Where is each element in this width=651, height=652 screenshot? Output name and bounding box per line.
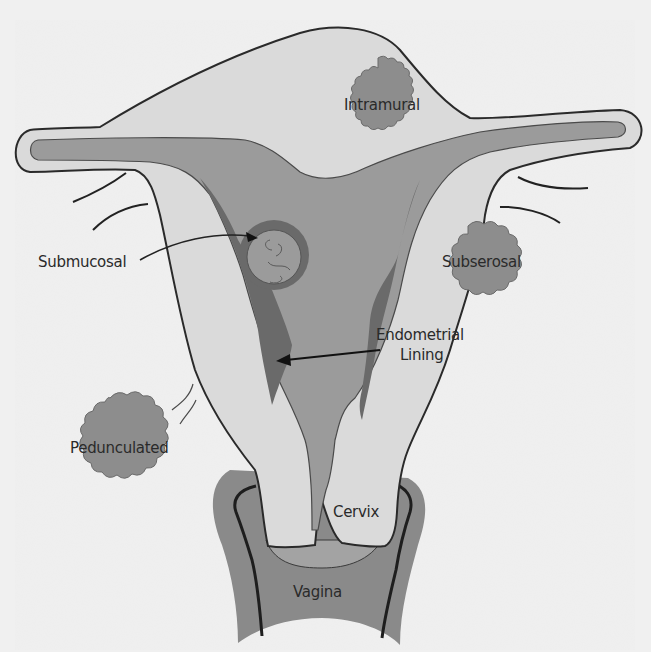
uterus-fibroid-diagram: Intramural Submucosal Subserosal Endomet…	[0, 0, 651, 652]
label-endometrial-line2: Lining	[400, 346, 443, 364]
label-vagina: Vagina	[293, 583, 342, 601]
label-pedunculated: Pedunculated	[70, 439, 168, 457]
label-endometrial-line1: Endometrial	[376, 326, 464, 344]
label-submucosal: Submucosal	[38, 253, 126, 271]
label-subserosal: Subserosal	[442, 253, 521, 271]
label-intramural: Intramural	[344, 96, 420, 114]
label-cervix: Cervix	[333, 503, 379, 521]
